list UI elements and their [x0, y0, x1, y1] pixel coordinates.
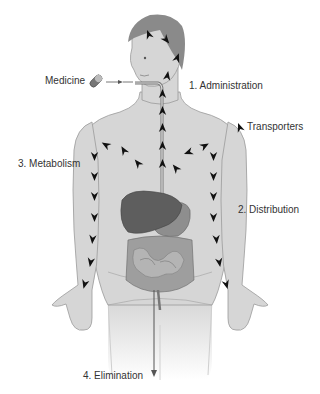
pill-icon	[89, 74, 104, 89]
right-arm	[221, 122, 268, 330]
label-administration: 1. Administration	[189, 80, 263, 92]
label-elimination: 4. Elimination	[83, 370, 143, 382]
legs	[108, 300, 212, 380]
human-body-illustration	[0, 0, 320, 394]
label-medicine: Medicine	[45, 75, 85, 87]
label-transporters: Transporters	[247, 121, 303, 133]
label-metabolism: 3. Metabolism	[18, 158, 80, 170]
medicine-arrow	[106, 80, 133, 84]
label-distribution: 2. Distribution	[238, 204, 299, 216]
